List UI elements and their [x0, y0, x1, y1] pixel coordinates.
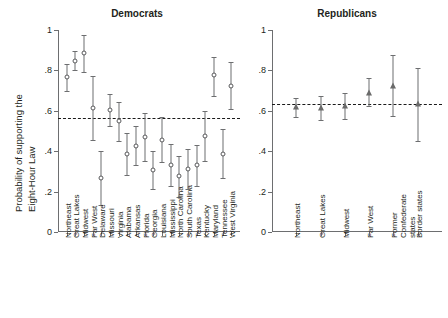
- y-tick-label: 0: [261, 227, 266, 237]
- plot-area-democrats: 0.2.4.6.81NortheastGreat LakesMidwestFar…: [58, 30, 240, 232]
- error-bar-cap: [229, 62, 234, 63]
- y-tick-label: .4: [44, 146, 52, 156]
- error-bar-cap: [194, 186, 199, 187]
- error-bar-cap: [64, 64, 69, 65]
- data-point[interactable]: [73, 59, 78, 64]
- error-bar-cap: [186, 149, 191, 150]
- x-axis-label: Delaware: [98, 204, 107, 238]
- data-point[interactable]: [116, 118, 121, 123]
- y-tick-label: 1: [261, 25, 266, 35]
- data-point[interactable]: [125, 152, 130, 157]
- data-point[interactable]: [151, 168, 156, 173]
- error-bar-cap: [134, 126, 139, 127]
- error-bar-cap: [116, 141, 121, 142]
- x-axis-label: Louisiana: [159, 204, 168, 238]
- error-bar-cap: [90, 140, 95, 141]
- x-axis-label: Kentucky: [202, 205, 211, 238]
- x-axis-label: Far West: [366, 206, 375, 238]
- data-point[interactable]: [90, 105, 95, 110]
- error-bar-cap: [415, 68, 420, 69]
- data-point[interactable]: [82, 51, 87, 56]
- data-point[interactable]: [229, 83, 234, 88]
- y-tick-mark: [54, 151, 58, 152]
- x-axis-label: Maryland: [211, 205, 220, 238]
- error-bar-cap: [391, 116, 396, 117]
- x-axis-label: Georgia: [150, 210, 159, 238]
- x-axis-label: Alabama: [124, 206, 133, 238]
- data-point[interactable]: [212, 73, 217, 78]
- error-bar-cap: [125, 175, 130, 176]
- error-bar-cap: [151, 189, 156, 190]
- data-point[interactable]: [177, 174, 182, 179]
- x-axis-label: Border states: [415, 190, 424, 238]
- plot-area-republicans: 0.2.4.6.81NortheastGreat LakesMidwestFar…: [272, 30, 442, 232]
- data-point[interactable]: [186, 167, 191, 172]
- y-tick-label: .4: [258, 146, 266, 156]
- error-bar-cap: [342, 93, 347, 94]
- error-bar-cap: [220, 178, 225, 179]
- y-tick-mark: [268, 151, 272, 152]
- error-bar-cap: [108, 126, 113, 127]
- data-point[interactable]: [168, 163, 173, 168]
- y-tick-label: .6: [44, 106, 52, 116]
- error-bar-cap: [73, 51, 78, 52]
- x-axis-label: Great Lakes: [318, 194, 327, 238]
- error-bar-cap: [160, 117, 165, 118]
- error-bar-cap: [125, 133, 130, 134]
- error-bar-cap: [142, 161, 147, 162]
- y-axis-line-republicans: [272, 30, 273, 232]
- x-axis-label: North Carolina: [176, 186, 185, 238]
- data-point[interactable]: [194, 163, 199, 168]
- y-axis-label: Probability of supporting the Eight-Hour…: [0, 24, 30, 214]
- y-tick-mark: [54, 192, 58, 193]
- panel-title-republicans: Republicans: [248, 8, 446, 19]
- x-axis-label: Midwest: [81, 209, 90, 238]
- error-bar-cap: [90, 76, 95, 77]
- error-bar-cap: [82, 35, 87, 36]
- y-tick-label: .6: [258, 106, 266, 116]
- error-bar-cap: [64, 91, 69, 92]
- data-point[interactable]: [342, 102, 348, 108]
- error-bar-cap: [168, 144, 173, 145]
- error-bar-cap: [212, 96, 217, 97]
- y-tick-label: .8: [44, 65, 52, 75]
- error-bar-cap: [134, 165, 139, 166]
- panel-republicans: Republicans 0.2.4.6.81NortheastGreat Lak…: [248, 0, 446, 318]
- error-bar-cap: [220, 129, 225, 130]
- data-point[interactable]: [203, 134, 208, 139]
- error-bar-cap: [160, 162, 165, 163]
- error-bar-cap: [203, 161, 208, 162]
- data-point[interactable]: [134, 144, 139, 149]
- error-bar-cap: [203, 111, 208, 112]
- panel-title-democrats: Democrats: [32, 8, 242, 19]
- error-bar-cap: [151, 151, 156, 152]
- x-axis-label: Great Lakes: [72, 194, 81, 238]
- y-tick-label: .8: [258, 65, 266, 75]
- y-tick-mark: [268, 232, 272, 233]
- error-bar-cap: [116, 102, 121, 103]
- data-point[interactable]: [390, 82, 396, 88]
- error-bar-cap: [99, 151, 104, 152]
- error-bar-cap: [177, 156, 182, 157]
- error-bar-cap: [108, 94, 113, 95]
- y-tick-label: .2: [44, 187, 52, 197]
- data-point[interactable]: [293, 104, 299, 110]
- data-point[interactable]: [220, 152, 225, 157]
- error-bar-cap: [367, 106, 372, 107]
- data-point[interactable]: [64, 75, 69, 80]
- y-tick-mark: [54, 70, 58, 71]
- error-bar-cap: [318, 120, 323, 121]
- error-bar-cap: [194, 145, 199, 146]
- data-point[interactable]: [142, 135, 147, 140]
- data-point[interactable]: [318, 105, 324, 111]
- error-bar-cap: [294, 117, 299, 118]
- data-point[interactable]: [99, 176, 104, 181]
- x-axis-label: West Virginia: [228, 191, 237, 238]
- reference-line: [58, 118, 240, 119]
- data-point[interactable]: [160, 138, 165, 143]
- error-bar-cap: [73, 70, 78, 71]
- data-point[interactable]: [366, 89, 372, 95]
- data-point[interactable]: [108, 107, 113, 112]
- error-bar-cap: [342, 119, 347, 120]
- data-point[interactable]: [415, 101, 421, 107]
